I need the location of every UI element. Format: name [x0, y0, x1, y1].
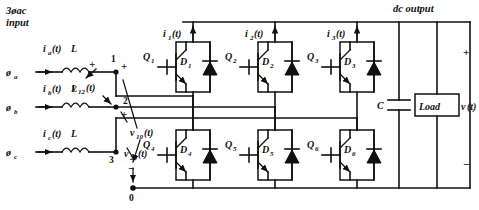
- q3-sub: 3: [314, 57, 319, 65]
- d5-label: D: [261, 144, 269, 155]
- circuit-diagram: 3øac input dc output ø a i a (t) L ø b i…: [0, 0, 479, 210]
- output-minus: −: [463, 158, 469, 170]
- i3-arg: (t): [336, 28, 345, 40]
- v20-sub: 20: [129, 154, 138, 162]
- current-ib-arg: (t): [52, 83, 61, 95]
- current-ic-label: i: [43, 128, 46, 139]
- output-voltage-arg: (t): [467, 101, 476, 113]
- node-3-label: 3: [109, 155, 114, 165]
- q4-sub: 4: [150, 145, 155, 153]
- q3-label: Q: [307, 51, 314, 62]
- v20-label: v: [124, 148, 129, 159]
- i2-arg: (t): [254, 28, 263, 40]
- d4-sub: 4: [187, 150, 192, 158]
- v12-sub: 12: [78, 88, 86, 96]
- v12-arg: (t): [86, 82, 95, 94]
- d1-sub: 1: [188, 62, 192, 70]
- output-title: dc output: [393, 3, 435, 14]
- node-0-minus: −: [128, 162, 134, 174]
- input-title-line1: 3øac: [5, 5, 27, 16]
- v10-arg: (t): [144, 127, 153, 139]
- inductor-a-plus: +: [89, 58, 95, 70]
- node-1-plus: +: [121, 60, 127, 72]
- node-1-label: 1: [111, 54, 116, 64]
- v10-label: v: [130, 127, 135, 138]
- i3-label: i: [327, 28, 330, 39]
- output-voltage-label: v: [461, 101, 466, 112]
- node-2-minus: −: [104, 95, 110, 107]
- q6-sub: 6: [315, 145, 319, 153]
- phase-b-sub: b: [14, 108, 18, 116]
- d2-label: D: [261, 56, 269, 67]
- q4-label: Q: [143, 139, 150, 150]
- phase-c-sub: c: [14, 153, 17, 161]
- node-3-plus: +: [121, 108, 127, 120]
- label-layer: 3øac input dc output ø a i a (t) L ø b i…: [0, 0, 479, 210]
- v12-label: v: [72, 82, 77, 93]
- node-0-label: 0: [129, 193, 134, 203]
- q5-sub: 5: [233, 145, 237, 153]
- phase-c-label: ø: [5, 147, 12, 158]
- node-2-label: 2: [123, 96, 128, 106]
- current-ia-arg: (t): [52, 43, 61, 55]
- d5-sub: 5: [270, 150, 274, 158]
- current-ia-label: i: [43, 43, 46, 54]
- inductor-c-label: L: [70, 128, 77, 139]
- d3-sub: 3: [351, 62, 356, 70]
- current-ib-label: i: [43, 83, 46, 94]
- d4-label: D: [179, 144, 187, 155]
- current-ic-arg: (t): [52, 128, 61, 140]
- phase-a-label: ø: [5, 67, 12, 78]
- d2-sub: 2: [269, 62, 274, 70]
- i1-label: i: [163, 28, 166, 39]
- d6-label: D: [343, 144, 351, 155]
- d1-label: D: [179, 56, 187, 67]
- i2-label: i: [245, 28, 248, 39]
- phase-b-label: ø: [5, 102, 12, 113]
- inductor-a-label: L: [70, 43, 77, 54]
- i1-sub: 1: [168, 34, 172, 42]
- d3-label: D: [343, 56, 351, 67]
- q5-label: Q: [225, 139, 232, 150]
- q6-label: Q: [307, 139, 314, 150]
- input-title-line2: input: [6, 17, 30, 28]
- q1-label: Q: [143, 51, 150, 62]
- i1-arg: (t): [172, 28, 181, 40]
- output-plus: +: [463, 46, 469, 58]
- q1-sub: 1: [151, 57, 155, 65]
- capacitor-label: C: [377, 100, 384, 111]
- current-ic-sub: c: [48, 134, 51, 142]
- q2-sub: 2: [232, 57, 237, 65]
- phase-a-sub: a: [14, 73, 18, 81]
- d6-sub: 6: [352, 150, 356, 158]
- q2-label: Q: [225, 51, 232, 62]
- load-label: Load: [418, 101, 441, 112]
